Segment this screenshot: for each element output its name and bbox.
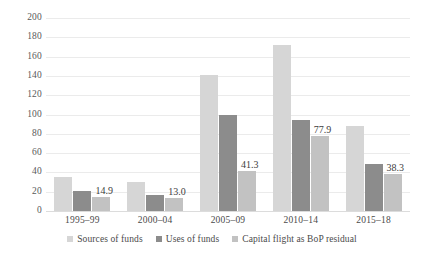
legend-label: Sources of funds	[77, 234, 142, 244]
bar	[292, 120, 310, 211]
bar	[127, 182, 145, 211]
bar-data-label: 14.9	[95, 186, 113, 196]
legend-label: Capital flight as BoP residual	[242, 234, 357, 244]
legend-swatch-icon	[156, 236, 162, 242]
bar-group: 41.3	[192, 18, 265, 211]
legend-item[interactable]: Capital flight as BoP residual	[232, 234, 357, 244]
legend-label: Uses of funds	[166, 234, 220, 244]
bar: 14.9	[92, 197, 110, 211]
x-axis: 1995–992000–042005–092010–142015–18	[46, 214, 410, 230]
legend-item[interactable]: Sources of funds	[67, 234, 142, 244]
chart-legend: Sources of fundsUses of fundsCapital fli…	[0, 234, 424, 244]
bar: 38.3	[384, 174, 402, 211]
bar-data-label: 38.3	[387, 163, 405, 173]
bar	[73, 191, 91, 211]
y-axis-tick-label: 180	[2, 32, 42, 42]
bar: 77.9	[311, 136, 329, 211]
bar-chart: 200180160140120100806040200 14.913.041.3…	[0, 0, 424, 257]
y-axis-tick-label: 100	[2, 110, 42, 120]
x-axis-tick-label: 2005–09	[192, 214, 265, 226]
bar-group: 38.3	[337, 18, 410, 211]
bar-group: 14.9	[46, 18, 119, 211]
legend-item[interactable]: Uses of funds	[156, 234, 220, 244]
gridline	[46, 211, 410, 212]
y-axis-tick-label: 80	[2, 129, 42, 139]
y-axis-tick-label: 40	[2, 167, 42, 177]
x-axis-tick-label: 2015–18	[337, 214, 410, 226]
legend-swatch-icon	[232, 236, 238, 242]
bar-group: 77.9	[264, 18, 337, 211]
bar-data-label: 77.9	[314, 125, 332, 135]
bar	[273, 45, 291, 211]
y-axis-tick-label: 60	[2, 148, 42, 158]
bar	[346, 126, 364, 211]
y-axis-tick-label: 200	[2, 13, 42, 23]
x-axis-tick-label: 2010–14	[264, 214, 337, 226]
y-axis-tick-label: 120	[2, 90, 42, 100]
bar	[219, 115, 237, 211]
bar-data-label: 13.0	[168, 187, 186, 197]
bar: 13.0	[165, 198, 183, 211]
y-axis-tick-label: 0	[2, 206, 42, 216]
bar	[146, 195, 164, 211]
bar	[54, 177, 72, 211]
y-axis-tick-label: 20	[2, 187, 42, 197]
bar-group: 13.0	[119, 18, 192, 211]
bar-data-label: 41.3	[241, 160, 259, 170]
bar	[365, 164, 383, 211]
bars-layer: 14.913.041.377.938.3	[46, 18, 410, 211]
x-axis-tick-label: 1995–99	[46, 214, 119, 226]
legend-swatch-icon	[67, 236, 73, 242]
x-axis-tick-label: 2000–04	[119, 214, 192, 226]
y-axis: 200180160140120100806040200	[0, 18, 42, 211]
bar	[200, 75, 218, 211]
y-axis-tick-label: 160	[2, 52, 42, 62]
bar: 41.3	[238, 171, 256, 211]
y-axis-tick-label: 140	[2, 71, 42, 81]
